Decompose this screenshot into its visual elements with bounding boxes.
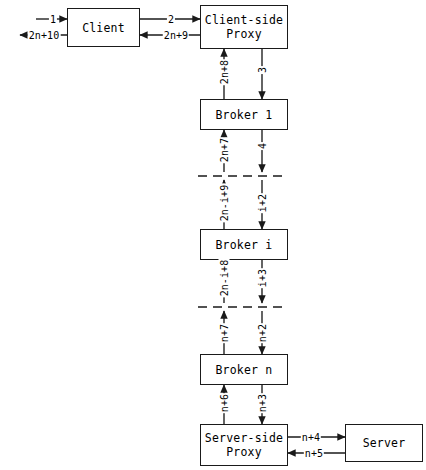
edge-label-sproxy-to-server: n+4 bbox=[301, 432, 321, 443]
edge-label-brokeri-down: i+3 bbox=[257, 268, 268, 288]
edge-label-client-in: 1 bbox=[49, 14, 57, 25]
edge-label-outof-brokeri: 2n-i+9 bbox=[219, 184, 230, 223]
node-broker-1[interactable]: Broker 1 bbox=[200, 99, 288, 130]
edge-label-into-brokeri: i+2 bbox=[257, 193, 268, 213]
edge-label-brokeri-up: 2n-i+8 bbox=[219, 259, 230, 298]
edge-label-server-to-sproxy: n+5 bbox=[304, 448, 324, 459]
edge-label-sproxy-to-brokern: n+6 bbox=[219, 393, 230, 413]
node-client-label: Client bbox=[82, 21, 125, 35]
node-client-side-proxy-label-1: Client-side bbox=[205, 13, 283, 27]
node-broker-i-label: Broker i bbox=[216, 238, 273, 252]
edge-label-proxy-to-client: 2n+9 bbox=[163, 30, 189, 41]
node-client[interactable]: Client bbox=[67, 8, 140, 47]
node-broker-n-label: Broker n bbox=[216, 363, 273, 377]
edge-label-into-brokern: n+2 bbox=[257, 323, 268, 343]
edge-label-proxy-to-broker1: 3 bbox=[257, 66, 268, 74]
edge-label-broker1-down: 4 bbox=[257, 142, 268, 150]
node-broker-1-label: Broker 1 bbox=[216, 108, 273, 122]
edge-label-client-out: 2n+10 bbox=[28, 30, 61, 41]
node-broker-i[interactable]: Broker i bbox=[200, 229, 288, 260]
node-server-side-proxy-label-2: Proxy bbox=[226, 445, 262, 459]
edge-label-broker1-up: 2n+7 bbox=[219, 137, 230, 163]
edge-label-client-to-proxy: 2 bbox=[167, 14, 175, 25]
node-server[interactable]: Server bbox=[345, 424, 423, 462]
diagram-canvas: Client Client-side Proxy Broker 1 Broker… bbox=[0, 0, 426, 470]
edge-label-brokern-to-sproxy: n+3 bbox=[257, 393, 268, 413]
node-server-label: Server bbox=[363, 436, 406, 450]
node-broker-n[interactable]: Broker n bbox=[200, 354, 288, 385]
node-client-side-proxy[interactable]: Client-side Proxy bbox=[200, 5, 288, 49]
node-client-side-proxy-label-2: Proxy bbox=[226, 27, 262, 41]
node-server-side-proxy[interactable]: Server-side Proxy bbox=[200, 424, 288, 466]
edge-label-broker1-to-proxy: 2n+8 bbox=[219, 59, 230, 85]
edge-label-outof-brokern: n+7 bbox=[219, 323, 230, 343]
node-server-side-proxy-label-1: Server-side bbox=[205, 431, 283, 445]
